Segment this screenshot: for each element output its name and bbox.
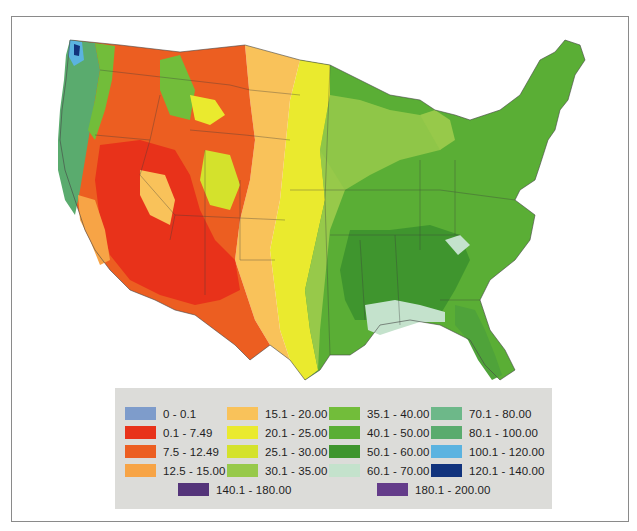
legend-item: 60.1 - 70.00 [329,464,430,477]
legend-label: 100.1 - 120.00 [469,446,545,458]
legend-item: 20.1 - 25.00 [227,426,328,439]
legend-item: 140.1 - 180.00 [178,483,292,496]
legend-label: 30.1 - 35.00 [265,465,328,477]
legend-swatch [431,407,462,420]
legend-swatch [125,445,156,458]
legend-item: 0 - 0.1 [125,407,196,420]
legend-label: 40.1 - 50.00 [367,427,430,439]
legend-label: 20.1 - 25.00 [265,427,328,439]
legend-swatch [329,407,360,420]
legend-item: 100.1 - 120.00 [431,445,545,458]
legend-swatch [178,483,209,496]
legend-label: 180.1 - 200.00 [415,484,491,496]
legend-item: 25.1 - 30.00 [227,445,328,458]
legend-item: 80.1 - 100.00 [431,426,538,439]
legend-swatch [431,426,462,439]
legend-label: 80.1 - 100.00 [469,427,538,439]
legend-label: 50.1 - 60.00 [367,446,430,458]
legend-label: 0.1 - 7.49 [163,427,213,439]
legend-swatch [227,426,258,439]
legend-swatch [431,445,462,458]
legend-label: 140.1 - 180.00 [216,484,292,496]
legend-swatch [431,464,462,477]
legend-item: 35.1 - 40.00 [329,407,430,420]
legend-label: 12.5 - 15.00 [163,465,226,477]
legend-label: 0 - 0.1 [163,408,196,420]
legend-item: 180.1 - 200.00 [377,483,491,496]
legend-label: 35.1 - 40.00 [367,408,430,420]
legend-item: 0.1 - 7.49 [125,426,213,439]
legend-swatch [227,464,258,477]
legend-label: 25.1 - 30.00 [265,446,328,458]
legend-label: 120.1 - 140.00 [469,465,545,477]
legend-item: 70.1 - 80.00 [431,407,532,420]
legend-item: 120.1 - 140.00 [431,464,545,477]
legend-swatch [329,464,360,477]
legend-item: 12.5 - 15.00 [125,464,226,477]
legend-swatch [329,426,360,439]
legend-swatch [125,426,156,439]
legend-swatch [377,483,408,496]
map-region-olympic-peak [74,44,80,56]
legend-label: 70.1 - 80.00 [469,408,532,420]
legend-label: 60.1 - 70.00 [367,465,430,477]
legend-item: 40.1 - 50.00 [329,426,430,439]
legend-label: 7.5 - 12.49 [163,446,219,458]
legend-swatch [125,464,156,477]
legend-label: 15.1 - 20.00 [265,408,328,420]
map-legend: 0 - 0.1 0.1 - 7.49 7.5 - 12.49 12.5 - 15… [115,388,552,509]
legend-swatch [329,445,360,458]
legend-item: 50.1 - 60.00 [329,445,430,458]
legend-swatch [125,407,156,420]
legend-swatch [227,407,258,420]
legend-item: 15.1 - 20.00 [227,407,328,420]
legend-item: 30.1 - 35.00 [227,464,328,477]
legend-item: 7.5 - 12.49 [125,445,219,458]
legend-swatch [227,445,258,458]
